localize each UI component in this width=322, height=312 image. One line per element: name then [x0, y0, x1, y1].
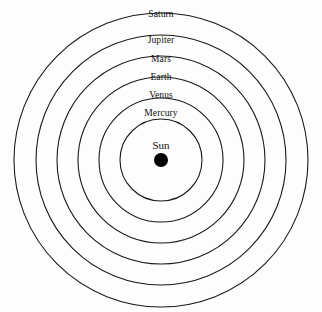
orbit-label-jupiter: Jupiter [148, 35, 175, 46]
center-label-sun: Sun [152, 139, 169, 151]
orbit-label-mars: Mars [151, 54, 171, 65]
solar-system-diagram: Saturn Jupiter Mars Earth Venus Mercury … [0, 0, 322, 312]
orbit-label-saturn: Saturn [148, 9, 173, 20]
sun-dot-icon [154, 153, 168, 167]
orbit-circles-group [0, 0, 322, 312]
orbit-label-venus: Venus [149, 90, 173, 101]
orbit-label-mercury: Mercury [144, 108, 177, 119]
orbit-label-earth: Earth [150, 72, 171, 83]
